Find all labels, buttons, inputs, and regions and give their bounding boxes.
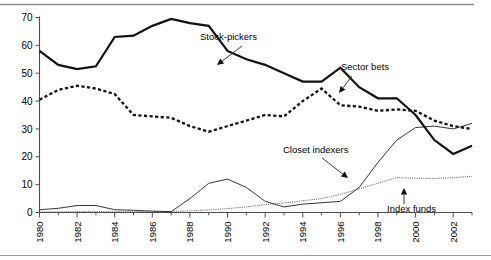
x-tick-label: 1984 bbox=[109, 222, 120, 243]
annotation-arrow-head bbox=[401, 188, 407, 195]
y-tick-label: 20 bbox=[21, 151, 33, 162]
annotation-label-sector-bets: Sector bets bbox=[341, 61, 389, 72]
annotation-arrow bbox=[322, 158, 343, 174]
line-chart: 010203040506070 198019821984198619881990… bbox=[0, 0, 491, 260]
annotation-arrow bbox=[343, 76, 352, 88]
series-layer bbox=[40, 19, 473, 212]
y-axis: 010203040506070 bbox=[21, 12, 39, 218]
annotation-arrow-head bbox=[341, 172, 348, 178]
series-line-closet-indexers bbox=[40, 123, 473, 211]
y-tick-label: 60 bbox=[21, 40, 33, 51]
annotation-arrow-head bbox=[217, 59, 224, 65]
y-tick-label: 10 bbox=[21, 179, 33, 190]
x-tick-label: 1990 bbox=[222, 222, 233, 243]
x-tick-label: 1982 bbox=[72, 222, 83, 243]
annotation-label-stock-pickers: Stock-pickers bbox=[200, 31, 257, 42]
y-tick-label: 70 bbox=[21, 12, 33, 23]
x-tick-label: 1988 bbox=[184, 222, 195, 243]
annotation-arrow-head bbox=[339, 86, 345, 93]
annotation-label-index-funds: Index funds bbox=[387, 203, 436, 214]
x-tick-label: 2002 bbox=[448, 222, 459, 243]
annotation-layer: Stock-pickersSector betsCloset indexersI… bbox=[200, 31, 436, 214]
x-tick-label: 2000 bbox=[410, 222, 421, 243]
y-tick-label: 50 bbox=[21, 68, 33, 79]
x-axis: 1980198219841986198819901992199419961998… bbox=[34, 213, 472, 243]
y-tick-label: 0 bbox=[27, 207, 33, 218]
annotation-label-closet-indexers: Closet indexers bbox=[283, 144, 349, 155]
x-tick-label: 1992 bbox=[260, 222, 271, 243]
y-tick-label: 30 bbox=[21, 124, 33, 135]
x-tick-label: 1986 bbox=[147, 222, 158, 243]
y-tick-label: 40 bbox=[21, 96, 33, 107]
x-tick-label: 1998 bbox=[372, 222, 383, 243]
x-tick-label: 1980 bbox=[34, 222, 45, 243]
x-tick-label: 1994 bbox=[297, 222, 308, 243]
chart-container: 010203040506070 198019821984198619881990… bbox=[0, 0, 491, 260]
x-tick-label: 1996 bbox=[335, 222, 346, 243]
